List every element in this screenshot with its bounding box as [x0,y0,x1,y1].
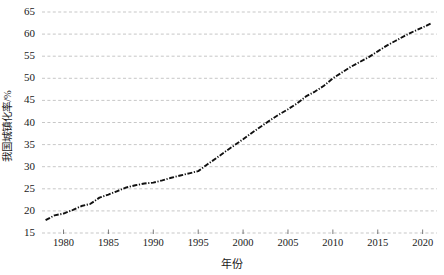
x-axis-title: 年份 [221,257,243,270]
x-tick-label-1985: 1985 [98,237,119,248]
y-tick-label-60: 60 [24,27,36,39]
x-tick-label-2015: 2015 [367,237,388,248]
y-tick-label-20: 20 [24,204,36,216]
chart-canvas: 1520253035404550556065 19801985199019952… [0,0,444,275]
y-tick-label-40: 40 [24,116,36,128]
y-tick-label-45: 45 [24,93,36,105]
x-tick-labels-group: 198019851990199520002005201020152020 [53,237,433,248]
x-tick-label-2000: 2000 [233,237,254,248]
x-tick-label-1995: 1995 [188,237,209,248]
y-axis-title: 我国城镇化率/% [1,90,13,162]
urbanization-rate-line-chart: 1520253035404550556065 19801985199019952… [0,0,444,275]
x-tick-label-1990: 1990 [143,237,164,248]
y-tick-label-25: 25 [24,182,36,194]
x-tick-label-2020: 2020 [412,237,433,248]
y-tick-label-55: 55 [24,49,36,61]
y-tick-label-30: 30 [24,160,36,172]
y-tick-label-65: 65 [24,5,36,17]
x-tick-label-1980: 1980 [53,237,74,248]
gridlines-group [42,12,437,233]
y-tick-label-50: 50 [24,71,36,83]
y-tick-label-15: 15 [24,226,36,238]
urbanization-rate-series [46,23,432,220]
y-tick-labels-group: 1520253035404550556065 [24,5,36,238]
x-tick-label-2010: 2010 [322,237,343,248]
y-tick-label-35: 35 [24,138,36,150]
x-tick-label-2005: 2005 [277,237,298,248]
